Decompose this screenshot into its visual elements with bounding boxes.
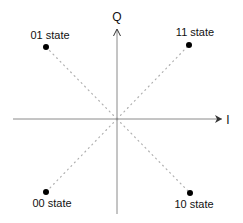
i-axis-label: I xyxy=(226,113,229,127)
point-00 xyxy=(43,189,49,195)
point-11 xyxy=(186,42,192,48)
guide-line-01 xyxy=(46,47,117,119)
q-axis-label: Q xyxy=(112,10,121,24)
constellation-diagram: Q I 01 state 11 state 00 state 10 state xyxy=(0,0,243,223)
point-label-11: 11 state xyxy=(176,26,214,38)
point-10 xyxy=(187,190,193,196)
guide-line-11 xyxy=(117,45,189,119)
point-label-10: 10 state xyxy=(174,198,213,210)
point-01 xyxy=(43,44,49,50)
guide-line-00 xyxy=(46,119,117,192)
point-label-00: 00 state xyxy=(32,197,71,209)
guide-line-10 xyxy=(117,119,190,193)
point-label-01: 01 state xyxy=(30,29,69,41)
